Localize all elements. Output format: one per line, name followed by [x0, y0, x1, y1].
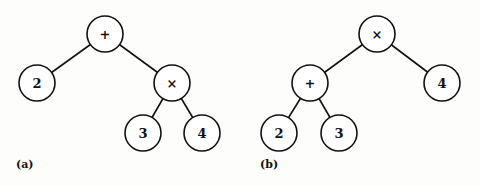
tree-node-3: 3	[321, 115, 357, 151]
tree-node-plus: +	[87, 16, 123, 52]
svg-text:+: +	[305, 76, 316, 91]
tree-node-times: ×	[154, 65, 190, 101]
tree-node-4: 4	[424, 65, 460, 101]
tree-node-2: 2	[19, 65, 55, 101]
svg-text:4: 4	[437, 76, 446, 91]
caption-b: (b)	[260, 158, 278, 171]
svg-text:2: 2	[274, 126, 283, 141]
tree-node-4: 4	[184, 115, 220, 151]
tree-node-3: 3	[125, 115, 161, 151]
caption-a: (a)	[16, 158, 34, 171]
tree-node-times: ×	[359, 16, 395, 52]
expression-trees: + 2 × 3 4 (a) × + 4 2 3 (b)	[0, 0, 480, 186]
tree-node-2: 2	[261, 115, 297, 151]
svg-text:+: +	[100, 27, 111, 42]
tree-node-plus: +	[292, 65, 328, 101]
svg-text:3: 3	[334, 126, 343, 141]
tree-a: + 2 × 3 4 (a)	[16, 16, 220, 171]
svg-text:3: 3	[138, 126, 147, 141]
svg-text:×: ×	[167, 76, 178, 91]
tree-b: × + 4 2 3 (b)	[260, 16, 460, 171]
svg-text:2: 2	[32, 76, 41, 91]
svg-text:4: 4	[197, 126, 206, 141]
svg-text:×: ×	[372, 27, 383, 42]
